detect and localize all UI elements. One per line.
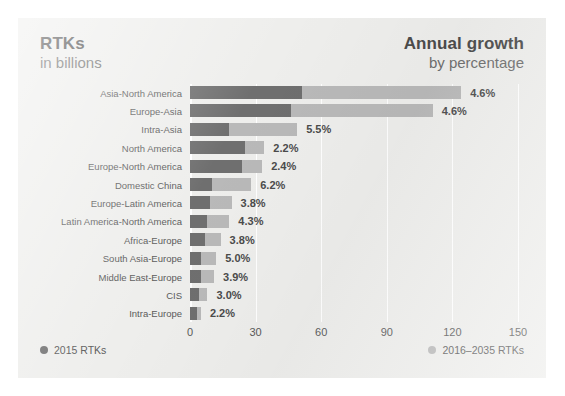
- category-label: Latin America-North America: [61, 216, 182, 227]
- category-label: South Asia-Europe: [103, 253, 182, 264]
- rtks-subtitle: in billions: [40, 54, 102, 72]
- dot-icon: [40, 346, 48, 354]
- bar-row: North America2.2%: [190, 141, 546, 154]
- bar-row: Europe-Latin America3.8%: [190, 196, 546, 209]
- stacked-bar: [190, 178, 251, 191]
- growth-value-label: 2.2%: [210, 307, 235, 319]
- bar-segment-2015: [190, 233, 205, 246]
- x-tick-label: 120: [443, 326, 461, 338]
- bar-segment-2015: [190, 196, 210, 209]
- category-label: Intra-Europe: [129, 308, 182, 319]
- chart-panel: RTKs in billions Annual growth by percen…: [18, 18, 546, 378]
- bar-row: Europe-North America2.4%: [190, 160, 546, 173]
- bar-segment-forecast: [201, 252, 216, 265]
- category-label: CIS: [166, 289, 182, 300]
- stacked-bar: [190, 307, 201, 320]
- x-tick-label: 0: [187, 326, 193, 338]
- bar-segment-2015: [190, 288, 199, 301]
- stacked-bar: [190, 215, 229, 228]
- bar-segment-forecast: [291, 104, 433, 117]
- category-label: North America: [122, 142, 182, 153]
- category-label: Europe-Asia: [130, 105, 182, 116]
- bar-segment-forecast: [210, 196, 232, 209]
- stacked-bar: [190, 233, 221, 246]
- growth-title: Annual growth: [404, 34, 524, 54]
- growth-value-label: 2.2%: [273, 142, 298, 154]
- bar-row: South Asia-Europe5.0%: [190, 252, 546, 265]
- bar-segment-2015: [190, 252, 201, 265]
- growth-value-label: 4.6%: [470, 87, 495, 99]
- growth-value-label: 3.8%: [241, 197, 266, 209]
- bar-segment-forecast: [199, 288, 208, 301]
- stacked-bar: [190, 123, 297, 136]
- stacked-bar: [190, 86, 461, 99]
- legend-label-2015: 2015 RTKs: [54, 344, 106, 356]
- stacked-bar: [190, 288, 207, 301]
- bar-row: CIS3.0%: [190, 288, 546, 301]
- plot-area: Asia-North America4.6%Europe-Asia4.6%Int…: [190, 84, 518, 322]
- bar-row: Latin America-North America4.3%: [190, 215, 546, 228]
- bar-row: Europe-Asia4.6%: [190, 104, 546, 117]
- bar-segment-2015: [190, 141, 245, 154]
- bar-row: Intra-Europe2.2%: [190, 307, 546, 320]
- bar-segment-2015: [190, 86, 302, 99]
- bar-segment-forecast: [302, 86, 462, 99]
- bar-segment-forecast: [207, 215, 229, 228]
- growth-value-label: 4.6%: [442, 105, 467, 117]
- category-label: Africa-Europe: [124, 234, 182, 245]
- bar-segment-2015: [190, 160, 242, 173]
- bar-segment-2015: [190, 123, 229, 136]
- growth-value-label: 4.3%: [238, 215, 263, 227]
- header-right: Annual growth by percentage: [404, 34, 524, 72]
- bar-row: Africa-Europe3.8%: [190, 233, 546, 246]
- x-tick-label: 150: [509, 326, 527, 338]
- legend-label-forecast: 2016–2035 RTKs: [442, 344, 524, 356]
- header-left: RTKs in billions: [40, 34, 102, 72]
- bar-segment-forecast: [242, 160, 262, 173]
- dot-icon: [428, 346, 436, 354]
- category-label: Europe-North America: [88, 161, 182, 172]
- category-label: Middle East-Europe: [99, 271, 182, 282]
- bar-segment-2015: [190, 215, 207, 228]
- bar-segment-2015: [190, 270, 201, 283]
- stacked-bar: [190, 141, 264, 154]
- bar-segment-2015: [190, 104, 291, 117]
- bar-segment-forecast: [212, 178, 251, 191]
- bar-segment-forecast: [245, 141, 265, 154]
- growth-value-label: 3.9%: [223, 271, 248, 283]
- bar-segment-2015: [190, 178, 212, 191]
- legend-item-forecast: 2016–2035 RTKs: [428, 344, 524, 356]
- stacked-bar: [190, 270, 214, 283]
- stacked-bar: [190, 104, 433, 117]
- x-axis: 0306090120150: [190, 326, 518, 342]
- growth-value-label: 5.0%: [225, 252, 250, 264]
- bar-segment-forecast: [205, 233, 220, 246]
- bar-rows: Asia-North America4.6%Europe-Asia4.6%Int…: [190, 84, 518, 322]
- category-label: Intra-Asia: [141, 124, 182, 135]
- x-tick-label: 60: [315, 326, 327, 338]
- bar-row: Asia-North America4.6%: [190, 86, 546, 99]
- x-tick-label: 90: [381, 326, 393, 338]
- bar-segment-forecast: [201, 270, 214, 283]
- rtks-title: RTKs: [40, 34, 102, 54]
- x-tick-label: 30: [249, 326, 261, 338]
- bar-row: Middle East-Europe3.9%: [190, 270, 546, 283]
- bar-segment-forecast: [229, 123, 297, 136]
- bar-row: Intra-Asia5.5%: [190, 123, 546, 136]
- stacked-bar: [190, 252, 216, 265]
- growth-subtitle: by percentage: [404, 54, 524, 72]
- category-label: Domestic China: [115, 179, 182, 190]
- growth-value-label: 3.8%: [230, 234, 255, 246]
- category-label: Europe-Latin America: [91, 197, 182, 208]
- stacked-bar: [190, 196, 232, 209]
- stacked-bar: [190, 160, 262, 173]
- growth-value-label: 3.0%: [216, 289, 241, 301]
- category-label: Asia-North America: [100, 87, 182, 98]
- legend-item-2015: 2015 RTKs: [40, 344, 106, 356]
- bar-row: Domestic China6.2%: [190, 178, 546, 191]
- growth-value-label: 6.2%: [260, 179, 285, 191]
- bar-segment-forecast: [197, 307, 201, 320]
- growth-value-label: 5.5%: [306, 123, 331, 135]
- growth-value-label: 2.4%: [271, 160, 296, 172]
